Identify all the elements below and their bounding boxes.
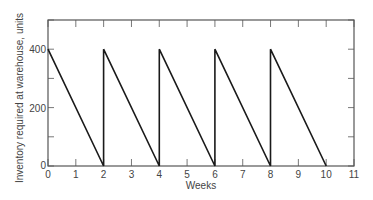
x-tick-label: 11	[349, 169, 360, 180]
x-tick-label: 8	[268, 169, 274, 180]
y-axis-label: Inventory required at warehouse, units	[14, 13, 25, 183]
x-axis-label: Weeks	[186, 180, 216, 191]
y-tick-label: 200	[29, 103, 46, 114]
inventory-chart: 01234567891011 0200400 Weeks Inventory r…	[0, 0, 373, 200]
x-tick-labels: 01234567891011	[45, 169, 359, 180]
inventory-sawtooth-line	[48, 49, 326, 166]
x-tick-label: 2	[101, 169, 107, 180]
x-tick-label: 10	[321, 169, 333, 180]
x-tick-label: 0	[45, 169, 51, 180]
x-tick-label: 7	[240, 169, 246, 180]
x-tick-label: 1	[73, 169, 79, 180]
x-tick-label: 3	[129, 169, 135, 180]
y-tick-label: 0	[40, 160, 46, 171]
x-tick-label: 9	[296, 169, 302, 180]
x-tick-label: 6	[212, 169, 218, 180]
x-tick-label: 5	[184, 169, 190, 180]
y-tick-label: 400	[29, 44, 46, 55]
x-tick-label: 4	[156, 169, 162, 180]
y-tick-labels: 0200400	[29, 44, 46, 171]
